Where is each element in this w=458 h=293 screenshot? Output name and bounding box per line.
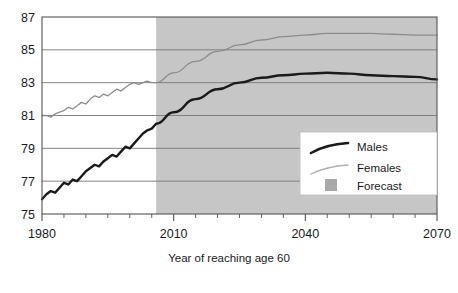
x-axis-tick-label: 1980 [28,227,56,241]
legend-label-males: Males [357,141,388,153]
chart-legend: Males Females Forecast [300,132,437,195]
x-axis-tick-label: 2040 [291,227,319,241]
y-axis-tick-label: 81 [21,109,35,123]
x-axis-caption: Year of reaching age 60 [168,252,290,264]
x-axis-tick-label: 2070 [423,227,451,241]
y-axis-tick-label: 87 [21,11,35,25]
y-axis-tick-label: 79 [21,142,35,156]
legend-label-females: Females [357,162,401,174]
x-axis-tick-label: 2010 [160,227,188,241]
y-axis-tick-label: 75 [21,208,35,222]
y-axis-tick-label: 85 [21,43,35,57]
life-expectancy-chart-figure: 75777981838587 1980201020402070 Males Fe… [0,0,458,293]
y-axis-tick-label: 77 [21,175,35,189]
legend-swatch-forecast [325,179,337,191]
y-axis-tick-label: 83 [21,76,35,90]
legend-label-forecast: Forecast [357,180,403,192]
chart-canvas: 75777981838587 1980201020402070 Males Fe… [0,0,458,293]
